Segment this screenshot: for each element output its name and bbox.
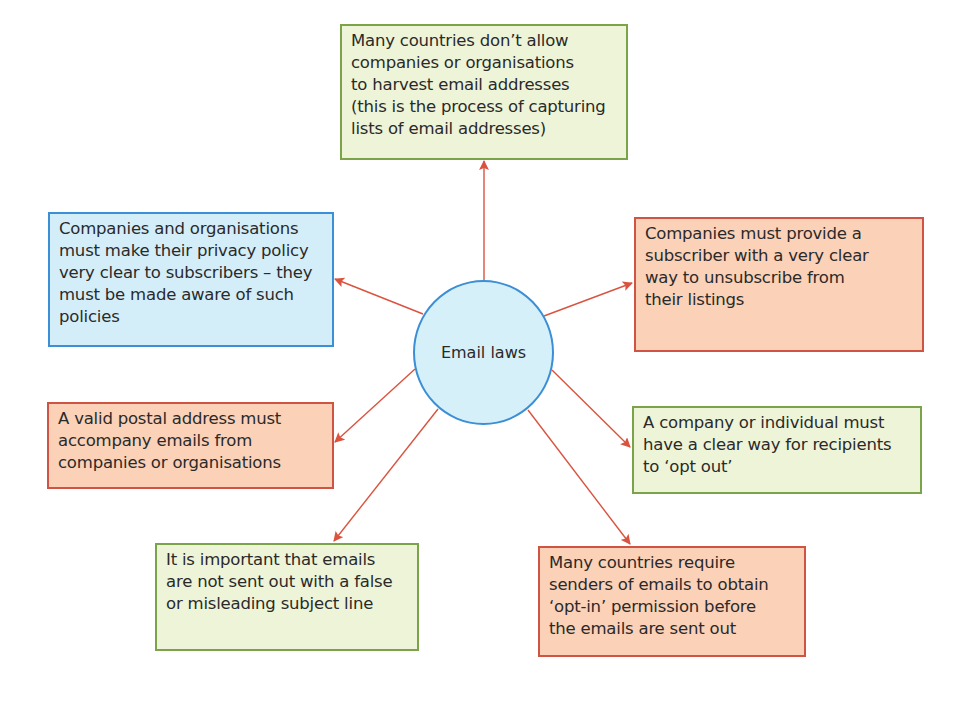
node-privacy-policy: Companies and organisations must make th… bbox=[48, 212, 334, 347]
arrow-to-postal-address bbox=[335, 369, 415, 442]
arrow-to-subject-line bbox=[334, 409, 438, 541]
node-subject-line: It is important that emails are not sent… bbox=[155, 543, 419, 651]
arrow-to-opt-in bbox=[528, 410, 630, 544]
center-node-label: Email laws bbox=[441, 343, 526, 362]
email-laws-diagram: Many countries don’t allow companies or … bbox=[0, 0, 972, 707]
node-harvest: Many countries don’t allow companies or … bbox=[340, 24, 628, 160]
node-postal-address: A valid postal address must accompany em… bbox=[47, 402, 334, 489]
arrow-to-unsubscribe bbox=[544, 283, 632, 316]
center-node-email-laws: Email laws bbox=[413, 280, 554, 425]
arrow-to-opt-out bbox=[552, 370, 630, 447]
node-opt-in: Many countries require senders of emails… bbox=[538, 546, 806, 657]
node-opt-out: A company or individual must have a clea… bbox=[632, 406, 922, 494]
arrow-to-privacy-policy bbox=[335, 279, 423, 314]
node-unsubscribe: Companies must provide a subscriber with… bbox=[634, 217, 924, 352]
